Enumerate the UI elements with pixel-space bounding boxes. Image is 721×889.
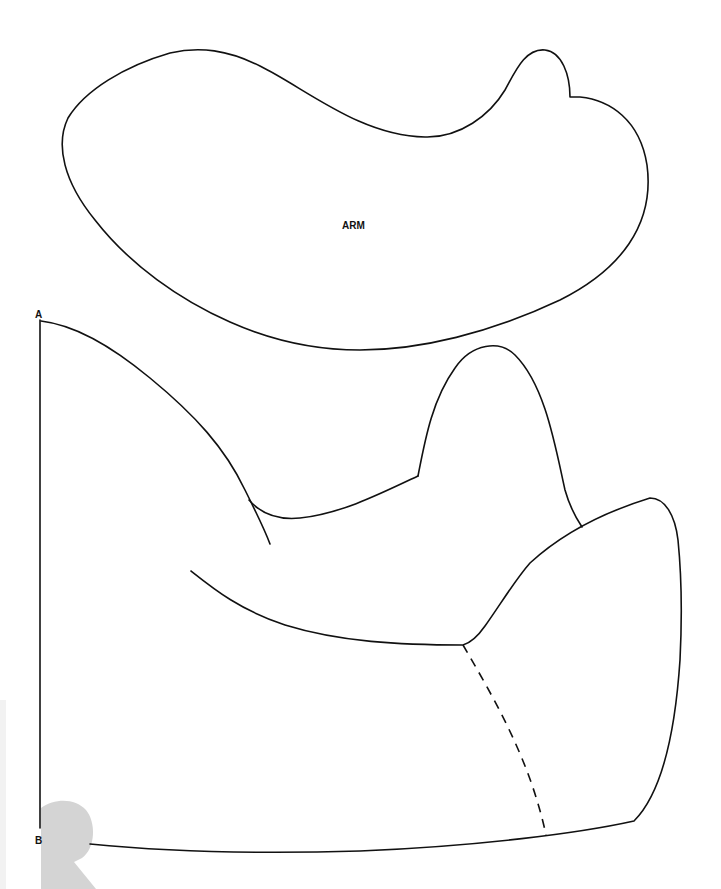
body-piece: A B — [35, 309, 681, 852]
marker-a-label: A — [35, 309, 42, 320]
thumb-outline — [418, 346, 582, 527]
gusset-curve — [249, 476, 418, 518]
arm-label: ARM — [342, 220, 365, 231]
dashed-seam-line — [463, 645, 546, 835]
page-edge-shadow — [0, 700, 6, 889]
shoulder-curve — [41, 321, 270, 544]
lower-curve — [90, 498, 681, 852]
watermark-shape — [41, 801, 96, 889]
marker-b-label: B — [35, 835, 42, 846]
arm-outline — [62, 50, 648, 350]
pattern-canvas: ARM A B — [0, 0, 721, 889]
arm-piece: ARM — [62, 50, 648, 350]
